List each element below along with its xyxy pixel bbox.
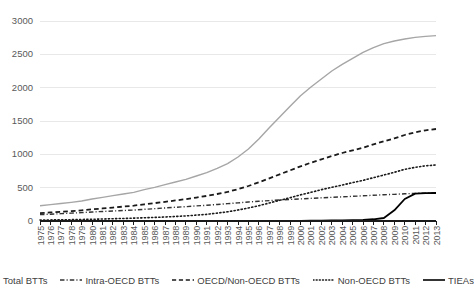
legend-item[interactable]: TIEAs bbox=[423, 275, 474, 286]
x-axis-tick-label: 1976 bbox=[46, 226, 56, 245]
x-axis-tick-label: 2005 bbox=[348, 226, 358, 245]
legend-swatch-icon bbox=[60, 276, 82, 284]
x-axis-tick-label: 1985 bbox=[140, 226, 150, 245]
chart-legend: Total BTTsIntra-OECD BTTsOECD/Non-OECD B… bbox=[0, 271, 452, 289]
x-axis-tick-label: 1986 bbox=[150, 226, 160, 245]
legend-item[interactable]: Non-OECD BTTs bbox=[313, 275, 410, 286]
x-axis-tick-label: 1988 bbox=[171, 226, 181, 245]
x-axis-tick-label: 2012 bbox=[421, 226, 431, 245]
x-axis-tick-label: 2000 bbox=[296, 226, 306, 245]
x-axis-tick-label: 1981 bbox=[98, 226, 108, 245]
x-axis-tick-label: 1977 bbox=[56, 226, 66, 245]
x-axis-tick-label: 2006 bbox=[359, 226, 369, 245]
x-axis-tick-label: 1994 bbox=[234, 226, 244, 245]
x-axis-tick-label: 2003 bbox=[327, 226, 337, 245]
legend-swatch-icon bbox=[172, 276, 194, 284]
x-axis-tick-label: 1991 bbox=[202, 226, 212, 245]
legend-item[interactable]: OECD/Non-OECD BTTs bbox=[172, 275, 299, 286]
x-axis-tick-label: 2010 bbox=[400, 226, 410, 245]
x-axis-tick-label: 1998 bbox=[275, 226, 285, 245]
x-axis-tick-label: 1997 bbox=[265, 226, 275, 245]
x-axis-tick-label: 1990 bbox=[192, 226, 202, 245]
x-axis-tick-label: 1975 bbox=[36, 226, 46, 245]
legend-swatch-icon bbox=[313, 276, 335, 284]
x-axis-tick-label: 1978 bbox=[67, 226, 77, 245]
x-axis-tick-label: 1996 bbox=[254, 226, 264, 245]
x-axis-tick-label: 2009 bbox=[390, 226, 400, 245]
x-axis-tick-label: 1989 bbox=[181, 226, 191, 245]
legend-item[interactable]: Intra-OECD BTTs bbox=[60, 275, 159, 286]
x-axis-tick-label: 2004 bbox=[338, 226, 348, 245]
legend-label: Non-OECD BTTs bbox=[338, 275, 410, 286]
x-axis-tick-label: 1992 bbox=[213, 226, 223, 245]
x-axis-tick-label: 2001 bbox=[306, 226, 316, 245]
x-axis-tick-label: 1993 bbox=[223, 226, 233, 245]
legend-label: Intra-OECD BTTs bbox=[85, 275, 159, 286]
legend-label: OECD/Non-OECD BTTs bbox=[197, 275, 299, 286]
x-axis-tick-label: 1999 bbox=[286, 226, 296, 245]
x-axis-tick-label: 1995 bbox=[244, 226, 254, 245]
x-axis-tick-label: 2002 bbox=[317, 226, 327, 245]
x-axis-tick-label: 2011 bbox=[411, 226, 421, 245]
x-axis-tick-label: 1982 bbox=[108, 226, 118, 245]
legend-label: TIEAs bbox=[448, 275, 474, 286]
legend-label: Total BTTs bbox=[3, 275, 47, 286]
legend-swatch-icon bbox=[423, 276, 445, 284]
x-axis-tick-label: 2008 bbox=[379, 226, 389, 245]
x-axis-tick-label: 1984 bbox=[129, 226, 139, 245]
x-axis-tick-label: 1983 bbox=[119, 226, 129, 245]
x-axis-tick-label: 1980 bbox=[88, 226, 98, 245]
x-axis-tick-label: 1979 bbox=[77, 226, 87, 245]
x-axis-tick-label: 2013 bbox=[432, 226, 442, 245]
x-axis-tick-label: 1987 bbox=[161, 226, 171, 245]
legend-item[interactable]: Total BTTs bbox=[0, 275, 47, 286]
x-axis-tick-label: 2007 bbox=[369, 226, 379, 245]
